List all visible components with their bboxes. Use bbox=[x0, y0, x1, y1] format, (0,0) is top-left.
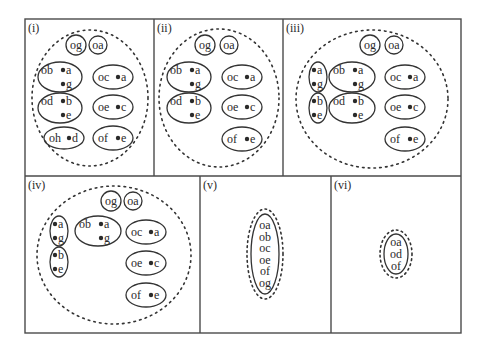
bullet-dot-icon bbox=[53, 267, 57, 271]
node-label: oa bbox=[223, 38, 235, 52]
bullet-dot-icon bbox=[190, 68, 194, 72]
member-label: e bbox=[121, 131, 126, 145]
member-label: a bbox=[104, 217, 110, 231]
node-label: og bbox=[70, 38, 82, 52]
bullet-dot-icon bbox=[53, 236, 57, 240]
bullet-dot-icon bbox=[353, 113, 357, 117]
bullet-dot-icon bbox=[353, 68, 357, 72]
node-label: ob bbox=[41, 63, 53, 77]
member-label: g bbox=[66, 77, 72, 91]
member-label: g bbox=[358, 77, 364, 91]
node-label: og bbox=[199, 38, 211, 52]
member-label: e bbox=[250, 132, 255, 146]
bullet-dot-icon bbox=[408, 75, 412, 79]
member-label: e bbox=[195, 108, 200, 122]
member-label: a bbox=[58, 217, 64, 231]
member-label: e bbox=[358, 108, 363, 122]
member-label: g bbox=[104, 231, 110, 245]
member-label: g bbox=[317, 77, 323, 91]
member-label: c bbox=[154, 256, 159, 270]
member-label: a bbox=[413, 70, 419, 84]
member-label: b bbox=[317, 94, 323, 108]
bullet-dot-icon bbox=[149, 230, 153, 234]
member-label: b bbox=[195, 94, 201, 108]
diagram-canvas: (i)ogoaobagocaodbeoecohdofe(ii)ogoaobago… bbox=[0, 0, 485, 350]
member-label: c bbox=[121, 100, 126, 114]
bullet-dot-icon bbox=[116, 105, 120, 109]
member-label: a bbox=[121, 70, 127, 84]
panel-label: (v) bbox=[203, 178, 217, 192]
panel-label: (iv) bbox=[28, 178, 45, 192]
node-label: of bbox=[131, 288, 141, 302]
node-label: oe bbox=[227, 100, 238, 114]
bullet-dot-icon bbox=[190, 82, 194, 86]
diagram-figure: (i)ogoaobagocaodbeoecohdofe(ii)ogoaobago… bbox=[0, 0, 485, 350]
node-label: of bbox=[98, 131, 108, 145]
member-label: g bbox=[195, 77, 201, 91]
node-label: od bbox=[41, 94, 53, 108]
panel-label: (ii) bbox=[157, 21, 172, 35]
bullet-dot-icon bbox=[116, 136, 120, 140]
bullet-dot-icon bbox=[99, 236, 103, 240]
bullet-dot-icon bbox=[245, 137, 249, 141]
node-label: oh bbox=[49, 131, 61, 145]
member-label: a bbox=[66, 63, 72, 77]
bullet-dot-icon bbox=[67, 136, 71, 140]
bullet-dot-icon bbox=[190, 113, 194, 117]
bullet-dot-icon bbox=[53, 253, 57, 257]
bullet-dot-icon bbox=[61, 82, 65, 86]
node-label: og bbox=[364, 38, 376, 52]
member-label: c bbox=[250, 100, 255, 114]
background bbox=[0, 0, 485, 350]
node-label: oa bbox=[388, 38, 400, 52]
member-label: c bbox=[413, 100, 418, 114]
bullet-dot-icon bbox=[61, 68, 65, 72]
bullet-dot-icon bbox=[353, 82, 357, 86]
member-label: b bbox=[58, 248, 64, 262]
node-label: od bbox=[333, 94, 345, 108]
node-label: oa bbox=[127, 194, 139, 208]
member-label: b bbox=[358, 94, 364, 108]
member-label: e bbox=[58, 262, 63, 276]
panel-label: (i) bbox=[28, 21, 39, 35]
node-label: oe bbox=[131, 256, 142, 270]
member-label: a bbox=[358, 63, 364, 77]
node-label: ob bbox=[333, 63, 345, 77]
node-label: ob bbox=[170, 63, 182, 77]
bullet-dot-icon bbox=[312, 113, 316, 117]
member-label: a bbox=[195, 63, 201, 77]
member-label: a bbox=[250, 70, 256, 84]
bullet-dot-icon bbox=[245, 75, 249, 79]
bullet-dot-icon bbox=[408, 105, 412, 109]
member-label: d bbox=[72, 131, 78, 145]
node-label: oc bbox=[390, 70, 401, 84]
panel-label: (iii) bbox=[286, 21, 304, 35]
member-label: e bbox=[413, 132, 418, 146]
member-label: e bbox=[66, 108, 71, 122]
node-label: od bbox=[170, 94, 182, 108]
bullet-dot-icon bbox=[61, 99, 65, 103]
node-label: oe bbox=[390, 100, 401, 114]
node-label: og bbox=[105, 194, 117, 208]
node-label: of bbox=[390, 132, 400, 146]
node-label: oc bbox=[227, 70, 238, 84]
member-label: g bbox=[58, 231, 64, 245]
node-label: of bbox=[227, 132, 237, 146]
bullet-dot-icon bbox=[245, 105, 249, 109]
node-label: oe bbox=[98, 100, 109, 114]
bullet-dot-icon bbox=[312, 99, 316, 103]
stack-item-label: of bbox=[391, 259, 401, 273]
bullet-dot-icon bbox=[53, 222, 57, 226]
bullet-dot-icon bbox=[312, 82, 316, 86]
bullet-dot-icon bbox=[190, 99, 194, 103]
bullet-dot-icon bbox=[116, 75, 120, 79]
bullet-dot-icon bbox=[353, 99, 357, 103]
node-label: oa bbox=[92, 38, 104, 52]
bullet-dot-icon bbox=[99, 222, 103, 226]
stack-item-label: og bbox=[259, 276, 271, 290]
bullet-dot-icon bbox=[149, 261, 153, 265]
node-label: oc bbox=[98, 70, 109, 84]
bullet-dot-icon bbox=[312, 68, 316, 72]
member-label: a bbox=[317, 63, 323, 77]
bullet-dot-icon bbox=[408, 137, 412, 141]
